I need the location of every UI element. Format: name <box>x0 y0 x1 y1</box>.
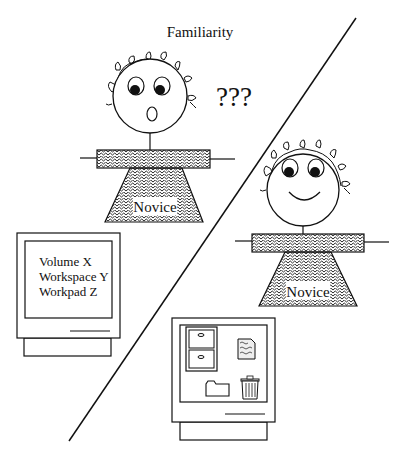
text-interface-monitor: Volume X Workspace Y Workpad Z <box>17 233 120 356</box>
shirt <box>252 234 364 252</box>
diagram-title: Familiarity <box>167 24 234 40</box>
desktop-interface-monitor <box>172 318 275 440</box>
open-mouth-icon <box>147 107 157 121</box>
document-icon <box>238 339 255 359</box>
question-marks: ??? <box>216 82 252 112</box>
text-line-workspace: Workspace Y <box>39 269 109 284</box>
happy-novice-figure: Novice <box>235 140 389 306</box>
trash-icon <box>241 376 259 399</box>
head-icon <box>267 154 339 226</box>
novice-label: Novice <box>286 284 330 300</box>
monitor-base <box>24 338 111 356</box>
novice-label: Novice <box>133 199 177 215</box>
shirt <box>97 150 210 168</box>
file-cabinet-icon <box>186 327 217 371</box>
head-icon <box>113 59 187 133</box>
monitor-base <box>180 422 267 440</box>
confused-novice-figure: Novice <box>80 52 235 222</box>
text-line-workpad: Workpad Z <box>39 284 98 299</box>
text-line-volume: Volume X <box>39 254 92 269</box>
familiarity-diagram: Familiarity <box>0 0 401 458</box>
